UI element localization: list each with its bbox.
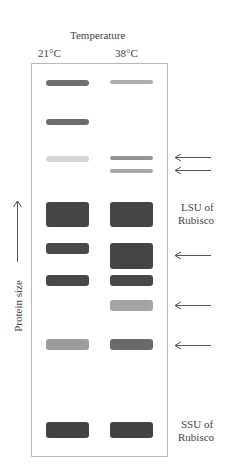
protein-size-label: Protein size xyxy=(12,276,24,336)
lsu-label-line1: LSU of xyxy=(178,201,214,214)
gel-band-lane2 xyxy=(110,243,153,269)
lane-label-38c: 38°C xyxy=(115,47,138,59)
gel-band-lane1 xyxy=(46,243,89,254)
arrow-left-icon xyxy=(174,341,212,350)
gel-band-lane1 xyxy=(46,80,89,86)
arrow-left-icon xyxy=(174,153,212,162)
gel-band-lane1 xyxy=(46,119,89,125)
arrow-left-icon xyxy=(174,166,212,175)
gel-band-lane2 xyxy=(110,339,153,350)
arrow-left-icon xyxy=(174,251,212,260)
ssu-label-line2: Rubisco xyxy=(178,431,214,444)
gel-band-lane2 xyxy=(110,156,153,160)
gel-band-lane1 xyxy=(46,202,89,227)
ssu-rubisco-label: SSU of Rubisco xyxy=(178,418,214,444)
gel-band-lane2 xyxy=(110,80,153,84)
gel-band-lane2 xyxy=(110,202,153,227)
lsu-rubisco-label: LSU of Rubisco xyxy=(178,201,214,227)
temperature-title: Temperature xyxy=(70,29,125,41)
protein-size-arrow-shaft xyxy=(17,202,18,262)
arrow-up-icon xyxy=(13,200,22,209)
gel-band-lane1 xyxy=(46,339,89,350)
gel-band-lane1 xyxy=(46,422,89,438)
gel-band-lane2 xyxy=(110,422,153,438)
gel-band-lane1 xyxy=(46,275,89,286)
arrow-left-icon xyxy=(174,301,212,310)
ssu-label-line1: SSU of xyxy=(178,418,214,431)
gel-band-lane1 xyxy=(46,156,89,162)
lane-label-21c: 21°C xyxy=(38,47,61,59)
lsu-label-line2: Rubisco xyxy=(178,214,214,227)
gel-band-lane2 xyxy=(110,169,153,173)
gel-band-lane2 xyxy=(110,300,153,311)
gel-frame xyxy=(31,63,168,457)
gel-band-lane2 xyxy=(110,275,153,286)
